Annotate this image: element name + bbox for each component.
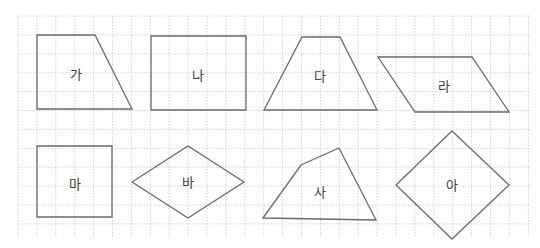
shape-label-a: 아 (446, 178, 458, 193)
shape-ba: 바 (132, 146, 244, 218)
shape-label-ra: 라 (438, 79, 450, 94)
quadrilateral-grid-figure: 가나다라마바사아 (0, 0, 540, 248)
shape-ga: 가 (37, 35, 132, 109)
shape-sa: 사 (263, 148, 376, 220)
shapes-layer: 가나다라마바사아 (37, 35, 509, 239)
shape-label-ma: 마 (69, 177, 81, 192)
shape-outline-ga (37, 35, 132, 109)
shape-label-ba: 바 (182, 175, 194, 190)
shape-a: 아 (396, 131, 509, 239)
shape-label-ga: 가 (70, 67, 82, 82)
shape-label-da: 다 (314, 69, 326, 84)
shape-label-na: 나 (192, 68, 204, 83)
dotted-grid (18, 16, 530, 238)
shape-label-sa: 사 (314, 185, 326, 200)
shape-ra: 라 (378, 57, 509, 112)
shape-da: 다 (264, 37, 377, 110)
